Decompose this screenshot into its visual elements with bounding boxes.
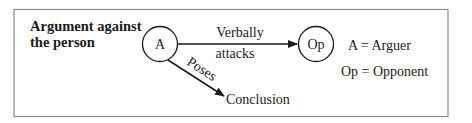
diagram: Argument against the person A Op Verball… [0, 0, 472, 123]
poses-label: Poses [184, 54, 219, 84]
opponent-label: Op [307, 37, 324, 52]
conclusion-label: Conclusion [226, 92, 290, 107]
title-line-2: the person [30, 34, 95, 50]
legend-line-1: A = Arguer [348, 38, 411, 53]
attack-label-2: attacks [216, 46, 255, 61]
attack-label-1: Verbally [216, 25, 263, 40]
title-line-1: Argument against [30, 18, 142, 34]
arguer-label: A [155, 37, 166, 52]
legend-line-2: Op = Opponent [341, 64, 428, 79]
